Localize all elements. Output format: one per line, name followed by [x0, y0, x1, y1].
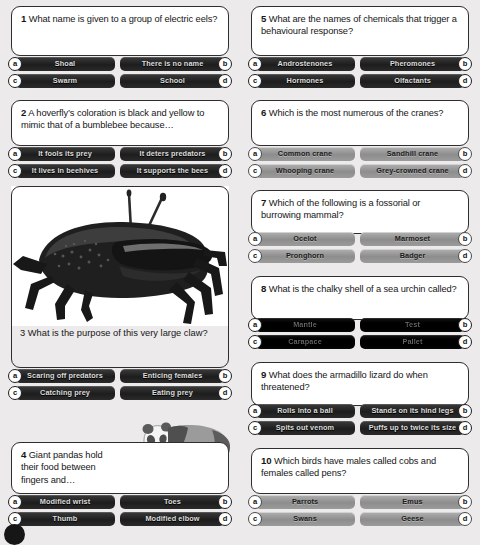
question-card-2: 2 A hoverfly’s coloration is black and y…: [11, 100, 229, 146]
option-8-a[interactable]: Mantle: [255, 318, 355, 332]
question-card-9: 9 What does the armadillo lizard do when…: [251, 362, 469, 406]
option-badge-6-d: d: [458, 164, 472, 178]
option-4-d[interactable]: Modified elbow: [120, 512, 225, 526]
option-badge-3-a: a: [8, 369, 22, 383]
question-card-6: 6 Which is the most numerous of the cran…: [251, 100, 469, 146]
question-number-8: 8: [261, 283, 266, 294]
question-number-2: 2: [21, 107, 26, 118]
answer-row-8-bottom: c Carapace Pallet d: [248, 334, 472, 349]
option-badge-5-b: b: [458, 57, 472, 71]
question-body-1: What name is given to a group of electri…: [29, 14, 218, 24]
option-3-b[interactable]: Enticing females: [120, 369, 225, 383]
option-10-c[interactable]: Swans: [255, 512, 355, 526]
answer-row-9-bottom: c Spits out venom Puffs up to twice its …: [248, 420, 472, 435]
answers-1: a Shoal There is no name b c Swarm Schoo…: [8, 56, 232, 90]
option-8-b[interactable]: Test: [360, 318, 465, 332]
option-badge-6-c: c: [248, 164, 262, 178]
option-badge-1-b: b: [218, 57, 232, 71]
option-2-d[interactable]: It supports the bees: [120, 164, 225, 178]
option-badge-9-b: b: [458, 404, 472, 418]
answer-row-10-bottom: c Swans Geese d: [248, 511, 472, 526]
option-9-c[interactable]: Spits out venom: [255, 421, 355, 435]
option-4-b[interactable]: Toes: [120, 495, 225, 509]
option-badge-2-c: c: [8, 164, 22, 178]
question-text-3: 3 What is the purpose of this very large…: [20, 327, 222, 339]
question-text-5: 5 What are the names of chemicals that t…: [261, 13, 460, 38]
option-8-c[interactable]: Carapace: [255, 335, 355, 349]
answer-row-1-top: a Shoal There is no name b: [8, 56, 232, 71]
option-5-d[interactable]: Olfactants: [360, 74, 465, 88]
option-9-a[interactable]: Rolls into a ball: [255, 404, 355, 418]
option-badge-7-d: d: [458, 249, 472, 263]
answer-row-4-top: a Modified wrist Toes b: [8, 494, 232, 509]
question-card-8: 8 What is the chalky shell of a sea urch…: [251, 276, 469, 320]
option-2-c[interactable]: It lives in beehives: [15, 164, 115, 178]
option-badge-8-a: a: [248, 318, 262, 332]
option-1-a[interactable]: Shoal: [15, 57, 115, 71]
question-text-2: 2 A hoverfly’s coloration is black and y…: [21, 107, 220, 132]
answers-6: a Common crane Sandhill crane b c Whoopi…: [248, 146, 472, 180]
option-9-b[interactable]: Stands on its hind legs: [360, 404, 465, 418]
option-9-d[interactable]: Puffs up to twice its size: [360, 421, 465, 435]
question-text-6: 6 Which is the most numerous of the cran…: [261, 107, 460, 119]
option-5-c[interactable]: Hormones: [255, 74, 355, 88]
option-badge-2-d: d: [218, 164, 232, 178]
option-badge-10-c: c: [248, 512, 262, 526]
option-3-d[interactable]: Eating prey: [120, 386, 225, 400]
option-2-b[interactable]: It deters predators: [120, 147, 225, 161]
option-4-a[interactable]: Modified wrist: [15, 495, 115, 509]
option-5-b[interactable]: Pheromones: [360, 57, 465, 71]
answer-row-6-top: a Common crane Sandhill crane b: [248, 146, 472, 161]
option-5-a[interactable]: Androstenones: [255, 57, 355, 71]
option-badge-8-c: c: [248, 335, 262, 349]
option-7-b[interactable]: Marmoset: [360, 232, 465, 246]
option-4-c[interactable]: Thumb: [15, 512, 115, 526]
question-text-9: 9 What does the armadillo lizard do when…: [261, 369, 460, 394]
answers-7: a Ocelot Marmoset b c Pronghorn Badger d: [248, 231, 472, 265]
option-6-a[interactable]: Common crane: [255, 147, 355, 161]
option-6-d[interactable]: Grey-crowned crane: [360, 164, 465, 178]
option-badge-1-d: d: [218, 74, 232, 88]
option-badge-5-a: a: [248, 57, 262, 71]
question-card-7: 7 Which of the following is a fossorial …: [251, 190, 469, 234]
option-7-d[interactable]: Badger: [360, 249, 465, 263]
option-badge-4-d: d: [218, 512, 232, 526]
option-10-a[interactable]: Parrots: [255, 495, 355, 509]
option-1-c[interactable]: Swarm: [15, 74, 115, 88]
option-6-c[interactable]: Whooping crane: [255, 164, 355, 178]
option-badge-9-d: d: [458, 421, 472, 435]
question-number-10: 10: [261, 455, 271, 466]
question-text-7: 7 Which of the following is a fossorial …: [261, 197, 460, 222]
question-body-3: What is the purpose of this very large c…: [28, 328, 208, 338]
option-3-c[interactable]: Catching prey: [15, 386, 115, 400]
question-text-10: 10 Which birds have males called cobs an…: [261, 455, 460, 480]
option-6-b[interactable]: Sandhill crane: [360, 147, 465, 161]
answer-row-2-top: a It fools its prey It deters predators …: [8, 146, 232, 161]
option-1-b[interactable]: There is no name: [120, 57, 225, 71]
option-badge-5-c: c: [248, 74, 262, 88]
question-body-8: What is the chalky shell of a sea urchin…: [269, 284, 457, 294]
answer-row-9-top: a Rolls into a ball Stands on its hind l…: [248, 403, 472, 418]
option-10-b[interactable]: Emus: [360, 495, 465, 509]
question-number-9: 9: [261, 369, 266, 380]
option-badge-3-c: c: [8, 386, 22, 400]
option-badge-6-a: a: [248, 147, 262, 161]
answers-4: a Modified wrist Toes b c Thumb Modified…: [8, 494, 232, 528]
question-number-7: 7: [261, 197, 266, 208]
answers-8: a Mantle Test b c Carapace Pallet d: [248, 317, 472, 351]
option-badge-7-c: c: [248, 249, 262, 263]
question-body-2: A hoverfly’s coloration is black and yel…: [21, 108, 204, 130]
option-badge-7-a: a: [248, 232, 262, 246]
option-7-a[interactable]: Ocelot: [255, 232, 355, 246]
option-1-d[interactable]: School: [120, 74, 225, 88]
option-3-a[interactable]: Scaring off predators: [15, 369, 115, 383]
option-badge-2-a: a: [8, 147, 22, 161]
option-10-d[interactable]: Geese: [360, 512, 465, 526]
option-badge-9-c: c: [248, 421, 262, 435]
option-badge-4-a: a: [8, 495, 22, 509]
option-2-a[interactable]: It fools its prey: [15, 147, 115, 161]
option-8-d[interactable]: Pallet: [360, 335, 465, 349]
option-7-c[interactable]: Pronghorn: [255, 249, 355, 263]
question-number-3: 3: [20, 328, 25, 338]
answer-row-8-top: a Mantle Test b: [248, 317, 472, 332]
